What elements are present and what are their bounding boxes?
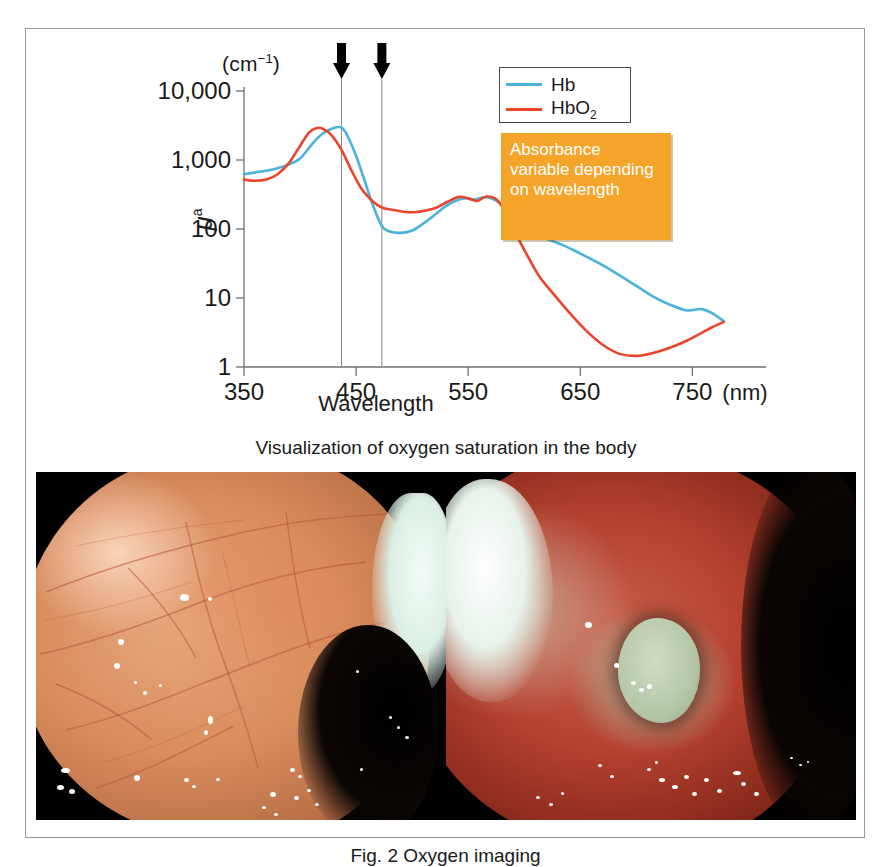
- specular-highlight: [360, 768, 363, 771]
- lumen-shadow-right: [741, 472, 856, 820]
- specular-highlight: [684, 775, 689, 779]
- specular-highlight: [717, 789, 722, 793]
- chart-legend: Hb HbO2: [499, 67, 631, 123]
- specular-highlight: [118, 639, 124, 645]
- absorbance-spectrum-chart: (cm−1) μa 1101001,00010,0003504505506507…: [26, 29, 866, 429]
- specular-highlight: [655, 761, 658, 764]
- specular-highlight: [585, 622, 592, 628]
- specular-highlight: [561, 792, 564, 795]
- specular-highlight: [262, 806, 266, 809]
- specular-highlight: [290, 768, 295, 772]
- figure-frame: (cm−1) μa 1101001,00010,0003504505506507…: [25, 28, 865, 838]
- svg-text:10,000: 10,000: [158, 77, 231, 104]
- svg-text:1: 1: [218, 353, 231, 380]
- specular-highlight: [208, 716, 213, 724]
- oxygen-saturation-endoscopy-image: [446, 472, 856, 820]
- legend-swatch-hbo2: [506, 108, 542, 111]
- specular-highlight: [549, 803, 553, 806]
- specular-highlight: [57, 785, 64, 790]
- wavelength-arrow-markers: [333, 43, 390, 79]
- legend-label-hbo2: HbO2: [551, 98, 597, 121]
- legend-label-hb: Hb: [551, 75, 575, 94]
- absorbance-callout-box: Absorbance variable depending on wavelen…: [501, 133, 671, 240]
- svg-text:1,000: 1,000: [171, 146, 231, 173]
- svg-text:10: 10: [204, 284, 231, 311]
- specular-highlight: [754, 792, 759, 796]
- legend-item-hbo2: HbO2: [506, 97, 624, 122]
- specular-highlight: [631, 681, 636, 685]
- specular-highlight: [270, 792, 276, 797]
- specular-highlight: [536, 796, 540, 799]
- marker-vertical-lines: [342, 79, 382, 367]
- specular-highlight: [180, 594, 189, 601]
- svg-text:(nm): (nm): [722, 380, 767, 405]
- lesion-region: [618, 618, 700, 722]
- x-axis-unit-label: (nm): [722, 380, 767, 405]
- specular-highlight: [647, 768, 651, 771]
- specular-highlight: [61, 768, 70, 773]
- specular-highlight: [204, 730, 208, 735]
- specular-highlight: [307, 789, 311, 792]
- specular-highlight: [389, 716, 392, 719]
- white-light-endoscopy-image: [36, 472, 446, 820]
- figure-caption: Fig. 2 Oxygen imaging: [0, 845, 891, 867]
- chart-plot-area: 1101001,00010,000350450550650750 (nm): [26, 29, 866, 429]
- svg-text:100: 100: [191, 215, 231, 242]
- specular-highlight: [184, 778, 189, 782]
- endoscopy-image-pair: [36, 472, 856, 820]
- legend-swatch-hb: [506, 83, 542, 86]
- specular-highlight: [315, 803, 319, 806]
- specular-highlight: [610, 775, 614, 778]
- specular-highlight: [807, 761, 809, 763]
- legend-item-hb: Hb: [506, 72, 624, 97]
- specular-highlight: [741, 782, 746, 786]
- middle-caption: Visualization of oxygen saturation in th…: [26, 437, 866, 459]
- specular-highlight: [639, 688, 644, 692]
- specular-highlight: [294, 796, 299, 800]
- x-axis-title: Wavelength: [26, 391, 726, 417]
- specular-highlight: [672, 785, 678, 789]
- specular-highlight: [397, 726, 400, 729]
- specular-highlight: [143, 691, 147, 695]
- specular-highlight: [274, 813, 278, 816]
- specular-highlight: [69, 789, 75, 794]
